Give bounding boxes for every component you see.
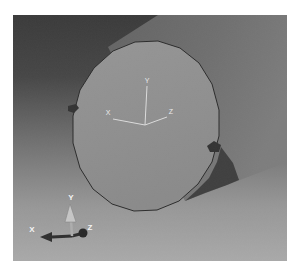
- view-triad-z-label: Z: [88, 223, 93, 232]
- figure-page: Y X Z Y X Z: [0, 0, 296, 274]
- viewport-3d[interactable]: Y X Z Y X Z: [13, 15, 287, 261]
- face-csys-z-label: Z: [169, 108, 174, 115]
- view-triad-y-shaft: [71, 220, 72, 236]
- face-csys-y-label: Y: [145, 77, 150, 84]
- face-csys-x-label: X: [106, 109, 111, 116]
- view-triad-z-cone: [79, 229, 88, 238]
- view-triad-x-shaft: [52, 236, 72, 237]
- view-triad-y-label: Y: [68, 193, 74, 202]
- view-triad-x-label: X: [29, 225, 35, 234]
